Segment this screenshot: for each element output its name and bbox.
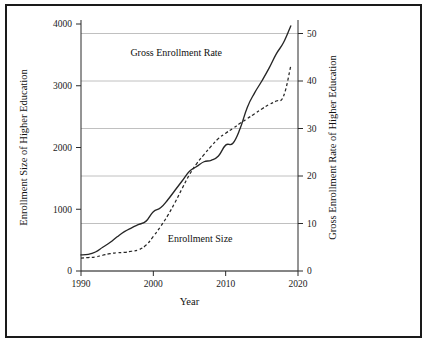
figure-border-frame: 01000200030004000 01020304050 1990200020… [5,4,422,338]
x-tick-label-1990: 1990 [72,279,91,289]
series-label-gross-enrollment-rate: Gross Enrollment Rate [130,47,222,58]
series-line-gross-enrollment-rate [81,26,291,255]
left-tick-label-2000: 2000 [53,143,72,153]
x-axis-title: Year [180,296,200,307]
series-label-enrollment-size: Enrollment Size [168,233,233,244]
right-tick-label-20: 20 [307,171,317,181]
x-tick-label-2020: 2020 [289,279,308,289]
y-axis-title: Enrollment Size of Higher Education [18,69,29,226]
series-line-enrollment-size [81,66,291,258]
left-tick-label-1000: 1000 [53,205,72,215]
right-tick-label-10: 10 [307,219,317,229]
right-tick-label-0: 0 [307,266,312,276]
right-tick-label-30: 30 [307,124,317,134]
right-axis-ticks: 01020304050 [298,29,317,277]
secondary-y-axis-title: Gross Enrollment Rate of Higher Educatio… [327,54,338,239]
left-tick-label-4000: 4000 [53,19,72,29]
x-tick-label-2010: 2010 [216,279,235,289]
figure-root: 01000200030004000 01020304050 1990200020… [0,0,427,345]
dual-axis-line-chart: 01000200030004000 01020304050 1990200020… [7,6,420,336]
right-tick-label-50: 50 [307,29,317,39]
left-tick-label-0: 0 [67,266,72,276]
left-tick-label-3000: 3000 [53,81,72,91]
left-axis-ticks: 01000200030004000 [53,19,81,276]
series-annotation-group: Enrollment SizeGross Enrollment Rate [130,47,233,244]
right-tick-label-40: 40 [307,76,317,86]
bottom-axis-ticks: 1990200020102020 [72,271,308,289]
x-tick-label-2000: 2000 [144,279,163,289]
